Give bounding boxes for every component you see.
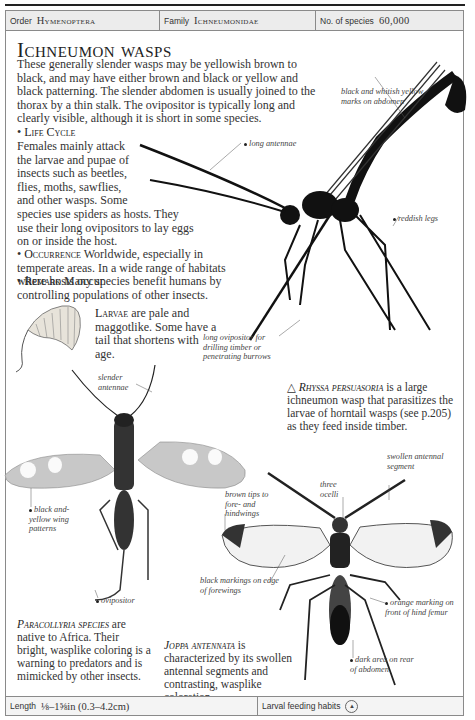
- habits-cell: Larval feeding habits ▲: [258, 697, 463, 715]
- label-abdomen-marks: black and whitish yellow marks on abdome…: [341, 87, 441, 106]
- label-wing-patterns: black and-yellow wing patterns: [29, 505, 79, 534]
- larva-illustration: [16, 306, 80, 372]
- paracollyria-caption: Paracollyria species are native to Afric…: [17, 618, 152, 683]
- habits-label: Larval feeding habits: [262, 701, 340, 711]
- label-slender-antennae: slender antennae: [98, 373, 138, 392]
- paracollyria-wasp-illustration: [5, 365, 245, 600]
- label-dark-area: dark area on rear of abdomen: [350, 655, 420, 674]
- label-brown-tips: brown tips to fore- and hindwings: [225, 490, 285, 519]
- label-orange-marking: orange marking on front of hind femur: [385, 598, 460, 617]
- length-cell: Length ⅛–1⅝in (0.3–4.2cm): [6, 697, 258, 715]
- label-three-ocelli: three ocelli: [320, 480, 350, 499]
- label-swollen-segment: swollen antennal segment: [387, 452, 457, 471]
- label-ovipositor: ovipositor: [96, 596, 135, 606]
- larval-habit-icon: ▲: [345, 700, 358, 713]
- length-value: ⅛–1⅝in (0.3–4.2cm): [41, 701, 129, 712]
- label-black-markings: black markings on edge of forewings: [200, 576, 280, 595]
- footer-bar: Length ⅛–1⅝in (0.3–4.2cm) Larval feeding…: [5, 696, 464, 716]
- length-label: Length: [10, 701, 36, 711]
- rhyssa-caption: △ Rhyssa persuasoria is a large ichneumo…: [287, 381, 457, 433]
- label-reddish-legs: reddish legs: [393, 214, 438, 224]
- joppa-caption: Joppa antennata is characterized by its …: [164, 639, 304, 704]
- label-long-ovipositor: long ovipositor for drilling timber or p…: [203, 333, 283, 362]
- label-long-antennae: long antennae: [244, 139, 296, 149]
